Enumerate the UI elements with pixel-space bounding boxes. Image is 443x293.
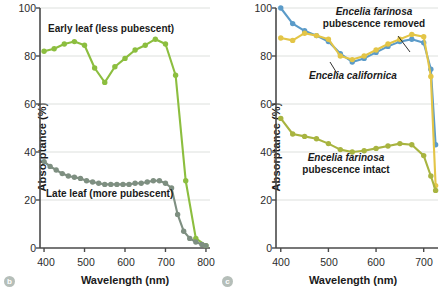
farinosa-removed-state: pubescence removed (323, 18, 425, 29)
californica-label: Encelia californica (309, 70, 397, 82)
panel-b-ytick-20: 20 (12, 194, 36, 206)
panel-c: Absorptance (%) 100 80 60 40 20 0 400 50… (218, 0, 438, 293)
early-leaf-label: Early leaf (less pubescent) (48, 23, 174, 35)
farinosa-intact-species: Encelia farinosa (308, 152, 385, 163)
panel-c-badge: c (222, 276, 233, 287)
panel-c-ytick-0: 0 (248, 242, 272, 254)
panel-b-xtick-700: 700 (150, 256, 182, 268)
panel-b-ytick-40: 40 (12, 146, 36, 158)
late-leaf-label: Late leaf (more pubescent) (46, 188, 173, 200)
panel-c-plot-area (276, 8, 438, 248)
farinosa-intact-label: Encelia farinosa pubescence intact (286, 152, 406, 175)
panel-c-ytick-40: 40 (248, 146, 272, 158)
panel-b-plot-area (40, 8, 210, 248)
panel-b-ytick-0: 0 (12, 242, 36, 254)
panel-b-xtick-400: 400 (30, 256, 62, 268)
panel-b-x-axis-title: Wavelength (nm) (40, 274, 210, 286)
panel-b-badge: b (4, 276, 15, 287)
panel-b-ytick-80: 80 (12, 50, 36, 62)
panel-c-ytick-100: 100 (248, 2, 272, 14)
panel-b-xtick-500: 500 (70, 256, 102, 268)
panel-c-xtick-400: 400 (265, 256, 297, 268)
panel-c-ytick-80: 80 (248, 50, 272, 62)
panel-c-ytick-20: 20 (248, 194, 272, 206)
farinosa-removed-label: Encelia farinosa pubescence removed (304, 6, 443, 29)
panel-b-ytick-60: 60 (12, 98, 36, 110)
panel-c-xtick-600: 600 (360, 256, 392, 268)
panel-c-xtick-700: 700 (408, 256, 440, 268)
farinosa-intact-state: pubescence intact (302, 164, 389, 175)
panel-c-xtick-500: 500 (313, 256, 345, 268)
panel-b-ytick-100: 100 (12, 2, 36, 14)
panel-b-xtick-600: 600 (110, 256, 142, 268)
panel-c-x-axis-title: Wavelength (nm) (268, 274, 438, 286)
farinosa-removed-species: Encelia farinosa (336, 6, 413, 17)
panel-b: Absorptance (%) 100 80 60 40 20 0 400 50… (0, 0, 218, 293)
panel-c-ytick-60: 60 (248, 98, 272, 110)
